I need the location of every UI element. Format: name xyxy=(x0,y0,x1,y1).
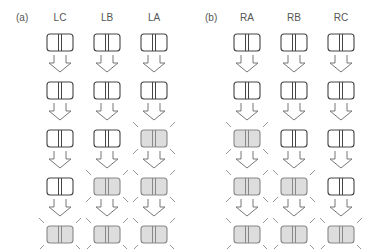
down-arrow-icon xyxy=(283,55,305,72)
glow-ray-icon xyxy=(39,245,44,249)
column-lc xyxy=(39,34,81,249)
glow-ray-icon xyxy=(133,245,138,249)
down-arrow-icon xyxy=(330,151,352,168)
glow-ray-icon xyxy=(310,245,315,249)
down-arrow-icon xyxy=(49,55,71,72)
glow-ray-icon xyxy=(273,245,278,249)
down-arrow-icon xyxy=(236,151,258,168)
state-box xyxy=(281,130,307,147)
highlighted-state-box xyxy=(273,218,315,249)
down-arrow-icon xyxy=(236,103,258,120)
glow-ray-icon xyxy=(226,245,231,249)
glow-ray-icon xyxy=(133,218,138,223)
down-arrow-icon xyxy=(49,103,71,120)
down-arrow-icon xyxy=(143,151,165,168)
state-box xyxy=(141,82,167,99)
glow-ray-icon xyxy=(170,122,175,127)
down-arrow-icon xyxy=(330,199,352,216)
down-arrow-icon xyxy=(96,199,118,216)
glow-ray-icon xyxy=(86,245,91,249)
state-box xyxy=(141,34,167,51)
glow-ray-icon xyxy=(123,170,128,175)
column-rb xyxy=(273,34,315,249)
highlighted-state-box xyxy=(320,218,362,249)
glow-ray-icon xyxy=(86,197,91,202)
state-box xyxy=(94,34,120,51)
state-box xyxy=(328,34,354,51)
glow-ray-icon xyxy=(170,197,175,202)
state-box xyxy=(47,34,73,51)
down-arrow-icon xyxy=(143,103,165,120)
glow-ray-icon xyxy=(273,197,278,202)
highlighted-state-box xyxy=(226,218,268,249)
glow-ray-icon xyxy=(310,197,315,202)
glow-ray-icon xyxy=(263,218,268,223)
state-transition-diagram xyxy=(0,0,373,249)
column-ra xyxy=(226,34,268,249)
down-arrow-icon xyxy=(96,55,118,72)
down-arrow-icon xyxy=(96,151,118,168)
glow-ray-icon xyxy=(226,149,231,154)
glow-ray-icon xyxy=(263,245,268,249)
highlighted-state-box xyxy=(133,218,175,249)
state-box xyxy=(47,130,73,147)
down-arrow-icon xyxy=(236,199,258,216)
glow-ray-icon xyxy=(310,218,315,223)
state-box xyxy=(47,82,73,99)
glow-ray-icon xyxy=(263,122,268,127)
glow-ray-icon xyxy=(76,218,81,223)
glow-ray-icon xyxy=(263,197,268,202)
glow-ray-icon xyxy=(76,245,81,249)
column-rc xyxy=(320,34,362,249)
highlighted-state-box xyxy=(86,170,128,202)
glow-ray-icon xyxy=(263,170,268,175)
glow-ray-icon xyxy=(133,122,138,127)
glow-ray-icon xyxy=(123,245,128,249)
glow-ray-icon xyxy=(226,197,231,202)
down-arrow-icon xyxy=(49,151,71,168)
state-box xyxy=(328,178,354,195)
down-arrow-icon xyxy=(143,199,165,216)
highlighted-state-box xyxy=(86,218,128,249)
glow-ray-icon xyxy=(170,218,175,223)
state-box xyxy=(94,82,120,99)
down-arrow-icon xyxy=(283,103,305,120)
glow-ray-icon xyxy=(133,170,138,175)
glow-ray-icon xyxy=(133,149,138,154)
glow-ray-icon xyxy=(320,218,325,223)
glow-ray-icon xyxy=(133,197,138,202)
highlighted-state-box xyxy=(39,218,81,249)
column-lb xyxy=(86,34,128,249)
state-box xyxy=(234,34,260,51)
glow-ray-icon xyxy=(86,170,91,175)
glow-ray-icon xyxy=(123,197,128,202)
down-arrow-icon xyxy=(330,55,352,72)
glow-ray-icon xyxy=(273,170,278,175)
glow-ray-icon xyxy=(226,218,231,223)
glow-ray-icon xyxy=(86,218,91,223)
state-box xyxy=(281,82,307,99)
glow-ray-icon xyxy=(263,149,268,154)
glow-ray-icon xyxy=(170,245,175,249)
down-arrow-icon xyxy=(283,151,305,168)
glow-ray-icon xyxy=(357,218,362,223)
state-box xyxy=(281,34,307,51)
highlighted-state-box xyxy=(226,122,268,154)
state-box xyxy=(328,82,354,99)
glow-ray-icon xyxy=(310,170,315,175)
down-arrow-icon xyxy=(49,199,71,216)
highlighted-state-box xyxy=(273,170,315,202)
glow-ray-icon xyxy=(320,245,325,249)
glow-ray-icon xyxy=(170,170,175,175)
glow-ray-icon xyxy=(39,218,44,223)
highlighted-state-box xyxy=(133,122,175,154)
down-arrow-icon xyxy=(143,55,165,72)
glow-ray-icon xyxy=(170,149,175,154)
glow-ray-icon xyxy=(357,245,362,249)
down-arrow-icon xyxy=(236,55,258,72)
state-box xyxy=(47,178,73,195)
glow-ray-icon xyxy=(123,218,128,223)
state-box xyxy=(328,130,354,147)
glow-ray-icon xyxy=(226,122,231,127)
glow-ray-icon xyxy=(226,170,231,175)
